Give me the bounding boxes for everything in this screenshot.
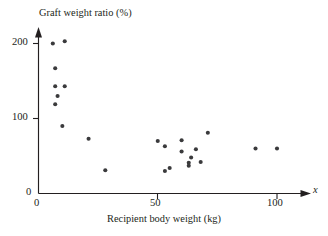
data-point bbox=[253, 146, 257, 150]
data-point bbox=[156, 139, 160, 143]
x-tick-label-100: 100 bbox=[267, 198, 283, 209]
data-point bbox=[180, 149, 184, 153]
y-axis-arrow-icon bbox=[35, 27, 42, 38]
data-points-group bbox=[51, 39, 279, 173]
data-point bbox=[87, 137, 91, 141]
data-point bbox=[194, 147, 198, 151]
data-point bbox=[51, 41, 55, 45]
data-point bbox=[199, 160, 203, 164]
data-point bbox=[53, 102, 57, 106]
data-point bbox=[163, 169, 167, 173]
y-tick-label-0: 0 bbox=[26, 187, 31, 198]
data-point bbox=[56, 94, 60, 98]
y-axis-title: Graft weight ratio (%) bbox=[39, 8, 132, 18]
y-axis-ticks-group bbox=[33, 44, 39, 119]
x-tick-label-0: 0 bbox=[34, 198, 39, 209]
y-tick-label-200: 200 bbox=[12, 37, 28, 48]
data-point bbox=[206, 131, 210, 135]
data-point bbox=[163, 144, 167, 148]
data-point bbox=[60, 124, 64, 128]
y-tick-label-100: 100 bbox=[12, 112, 28, 123]
axes-group bbox=[35, 27, 311, 197]
data-point bbox=[275, 146, 279, 150]
x-axis-arrow-icon bbox=[301, 190, 312, 197]
x-axis-variable-label: x bbox=[313, 185, 318, 196]
data-point bbox=[63, 39, 67, 43]
data-point bbox=[53, 66, 57, 70]
scatter-plot-figure: Graft weight ratio (%) Recipient body we… bbox=[0, 0, 328, 236]
data-point bbox=[189, 155, 193, 159]
data-point bbox=[63, 84, 67, 88]
x-tick-label-50: 50 bbox=[150, 198, 161, 209]
data-point bbox=[168, 166, 172, 170]
data-point bbox=[180, 138, 184, 142]
data-point bbox=[187, 161, 191, 165]
data-point bbox=[103, 168, 107, 172]
x-axis-title: Recipient body weight (kg) bbox=[0, 214, 328, 224]
x-axis-ticks-group bbox=[158, 194, 278, 200]
data-point bbox=[53, 84, 57, 88]
